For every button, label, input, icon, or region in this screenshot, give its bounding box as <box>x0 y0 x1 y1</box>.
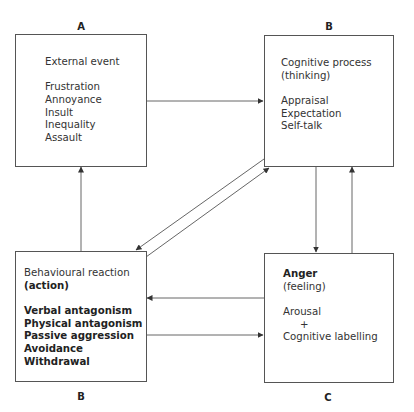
box-b-bottom-item: Withdrawal <box>24 356 142 369</box>
box-b-bottom-label: B <box>71 391 91 402</box>
arrow-behaviour-to-cognitive <box>146 168 269 257</box>
box-a-item: Annoyance <box>45 94 120 107</box>
box-b-top-item: Appraisal <box>281 95 372 108</box>
box-b-bottom-subtitle: (action) <box>24 280 142 293</box>
box-b-bottom-item: Avoidance <box>24 343 142 356</box>
arrow-cognitive-to-behaviour <box>136 159 264 250</box>
box-b-top-label: B <box>319 21 339 32</box>
box-c-item: Arousal <box>283 306 378 319</box>
box-c-text: Anger (feeling) Arousal + Cognitive labe… <box>283 268 378 344</box>
box-a-item: Inequality <box>45 119 120 132</box>
box-b-top-item: Expectation <box>281 108 372 121</box>
box-b-top-item: Self-talk <box>281 120 372 133</box>
box-a-item: Assault <box>45 132 120 145</box>
box-a-item: Frustration <box>45 81 120 94</box>
box-b-top-title: Cognitive process <box>281 57 372 70</box>
box-a-item: Insult <box>45 107 120 120</box>
box-b-top-subtitle: (thinking) <box>281 70 372 83</box>
box-c-subtitle: (feeling) <box>283 281 378 294</box>
box-b-bottom-item: Verbal antagonism <box>24 305 142 318</box>
box-c-title: Anger <box>283 268 378 281</box>
box-b-bottom-item: Passive aggression <box>24 330 142 343</box>
box-a-text: External event Frustration Annoyance Ins… <box>45 56 120 145</box>
box-c-item-plus: + <box>283 319 378 332</box>
box-c-label: C <box>318 392 338 403</box>
box-c-item: Cognitive labelling <box>283 331 378 344</box>
box-a-label: A <box>71 21 91 32</box>
box-b-bottom-title: Behavioural reaction <box>24 267 142 280</box>
box-b-top-text: Cognitive process (thinking) Appraisal E… <box>281 57 372 133</box>
box-a-title: External event <box>45 56 120 69</box>
box-b-bottom-text: Behavioural reaction (action) Verbal ant… <box>24 267 142 369</box>
box-b-bottom-item: Physical antagonism <box>24 318 142 331</box>
